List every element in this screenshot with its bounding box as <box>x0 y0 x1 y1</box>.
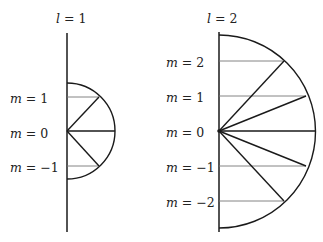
label-m-1-l1: m = −1 <box>10 160 59 175</box>
label-m1-l2: m = 1 <box>166 90 204 105</box>
label-m-2-l2: m = −2 <box>166 195 215 210</box>
label-m0-l2: m = 0 <box>166 125 204 140</box>
vector-m1-l1 <box>67 97 99 131</box>
title-l2: l = 2 <box>207 11 237 26</box>
diagram-l1: l = 1 m = 1 m = 0 m = −1 <box>10 11 115 232</box>
title-l1: l = 1 <box>56 11 86 26</box>
angular-momentum-quantization-diagram: l = 1 m = 1 m = 0 m = −1 l = 2 m = 2 <box>0 0 323 242</box>
origin-dot-l2 <box>217 129 221 133</box>
label-m0-l1: m = 0 <box>10 126 48 141</box>
vector-m-1-l1 <box>67 131 99 166</box>
label-m2-l2: m = 2 <box>166 55 204 70</box>
vector-m1-l2 <box>219 96 306 131</box>
diagram-l2: l = 2 m = 2 m = 1 m = 0 m = −1 m = −2 <box>166 11 316 232</box>
label-m-1-l2: m = −1 <box>166 160 215 175</box>
label-m1-l1: m = 1 <box>10 91 48 106</box>
vector-m-1-l2 <box>219 131 306 166</box>
